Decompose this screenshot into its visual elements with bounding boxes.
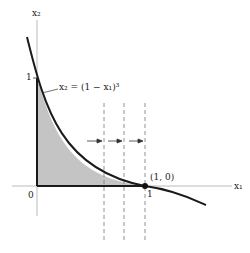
arrow-icons xyxy=(87,139,143,143)
origin-label: 0 xyxy=(28,190,34,200)
diagram-canvas xyxy=(0,0,250,253)
curve-equation: x₂ = (1 − x₁)³ xyxy=(59,82,119,92)
point-label: (1, 0) xyxy=(150,172,174,182)
y-axis-label: x₂ xyxy=(32,8,41,18)
y-tick-label: 1 xyxy=(26,72,32,82)
x-tick-label: 1 xyxy=(147,189,153,199)
equation-leader xyxy=(42,89,58,93)
x-axis-label: x₁ xyxy=(234,181,243,191)
shaded-region xyxy=(37,78,145,186)
